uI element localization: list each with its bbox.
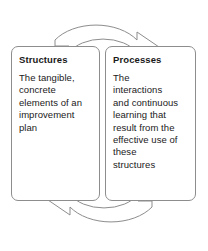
processes-box-title: Processes: [113, 54, 189, 66]
structures-box: Structures The tangible, concrete elemen…: [11, 46, 100, 201]
processes-box-body: The interactions and continuous learning…: [113, 72, 189, 171]
structures-box-title: Structures: [19, 54, 93, 66]
cycle-diagram: Structures The tangible, concrete elemen…: [0, 0, 208, 251]
structures-box-body: The tangible, concrete elements of an im…: [19, 72, 93, 134]
processes-box: Processes The interactions and continuou…: [105, 46, 196, 201]
